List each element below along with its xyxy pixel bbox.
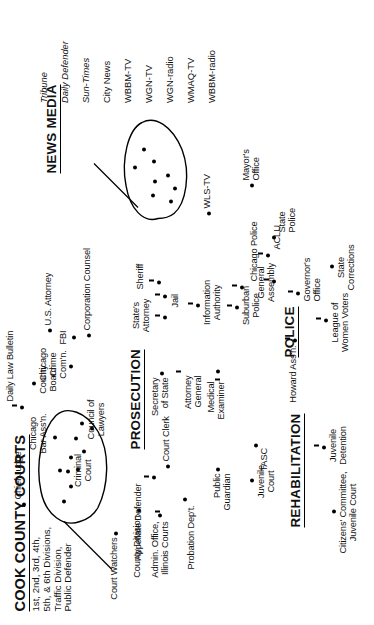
node-label-us-attorney: U.S. Attorney (43, 272, 53, 325)
node-label-court-watchers: Court Watchers (109, 537, 119, 621)
node-label-information-authority: Information Authority (202, 271, 222, 333)
node-label-states-attorney: State's Attorney (131, 291, 151, 339)
cluster-node (166, 173, 170, 177)
node-dot-citizens-committee (332, 509, 336, 513)
outlet-wbbm-tv: WBBM-TV (122, 58, 133, 102)
outlet-wgn-radio: WGN-radio (164, 56, 175, 103)
cluster-node (169, 199, 173, 203)
node-tick-sheriff (149, 279, 154, 281)
node-label-governors-office: Governor's Office (302, 257, 322, 301)
outlet-wmaq-tv: WMAQ-TV (185, 57, 196, 102)
node-tick-howard-assn (285, 337, 290, 339)
node-label-juvenile-court: Juvenile Court (256, 457, 276, 505)
cluster-node (62, 499, 66, 503)
node-dot-daily-law-bulletin (20, 405, 24, 409)
node-dot-county-board (32, 381, 36, 385)
outlet-wbbm-radio: WBBM-radio (206, 49, 217, 102)
node-dot-secretary-of-state (160, 371, 164, 375)
node-label-state-corrections: State Corrections (336, 235, 356, 299)
section-heading-prosecution: PROSECUTION (128, 349, 145, 449)
news-media-outlet-list: Tribune Daily Defender Sun-Times City Ne… (28, 41, 228, 113)
node-label-fbi: FBI (58, 321, 68, 353)
node-label-appellate-defender: Appellate Defender (133, 483, 143, 581)
node-label-state-police: State Police (277, 208, 297, 232)
diagram-canvas: COOK COUNTY COURTS 1st, 2nd, 3rd, 4th, 5… (0, 0, 374, 625)
node-dot-state-corrections (330, 264, 334, 268)
node-dot-league-women-voters (324, 318, 328, 322)
node-dot-chicago-police (240, 285, 244, 289)
node-tick-league-women-voters (316, 317, 321, 319)
outlet-city-news: City News (101, 60, 112, 102)
outlet-tribune: Tribune (38, 71, 49, 102)
node-dot-fbi (72, 335, 76, 339)
node-label-council-of-lawyers: Council of Lawyers (86, 391, 106, 447)
cluster-node (153, 179, 157, 183)
node-tick-chicago-police (232, 284, 237, 286)
node-dot-wls-tv (207, 211, 211, 215)
node-label-public-guardian: Public Guardian (212, 473, 232, 535)
node-tick-attorney-general (176, 370, 181, 372)
node-tick-daily-law-bulletin (12, 404, 17, 406)
node-dot-mayors-office (250, 183, 254, 187)
node-dot-juvenile-detention (322, 445, 326, 449)
node-dot-state-police (272, 235, 276, 239)
node-tick-information-authority (188, 302, 193, 304)
node-dot-appellate-defender (152, 475, 156, 479)
cluster-node (142, 147, 146, 151)
node-dot-juvenile-court (250, 478, 254, 482)
node-dot-criminal-court (66, 469, 70, 473)
node-dot-tasc (254, 443, 258, 447)
node-label-criminal-court: Criminal Court (73, 447, 93, 493)
outlet-sun-times: Sun-Times (80, 57, 91, 102)
node-label-medical-examiner: Medical Examiner (206, 381, 226, 431)
cluster-node (173, 186, 177, 190)
node-dot-jail (163, 294, 167, 298)
node-label-general-assembly: General Assembly (256, 255, 276, 309)
outlet-wgn-tv: WGN-TV (143, 65, 154, 103)
node-dot-chief-judge (22, 502, 26, 506)
cluster-node (151, 193, 155, 197)
node-dot-sheriff (157, 280, 161, 284)
node-label-secretary-of-state: Secretary of State (150, 377, 170, 433)
node-tick-states-attorney (155, 314, 160, 316)
node-dot-court-clerk (166, 464, 170, 468)
node-tick-juvenile-detention (314, 444, 319, 446)
node-label-admin-office: Admin. Office, Illinois Courts (150, 521, 170, 613)
cluster-node (58, 468, 62, 472)
node-tick-medical-examiner (215, 378, 220, 380)
node-label-corporation-counsel: Corporation Counsel (82, 248, 92, 330)
news-media-cluster (122, 117, 190, 225)
node-tick-governors-office (288, 290, 293, 292)
node-label-wls-tv: WLS-TV (202, 174, 212, 208)
node-label-chief-judge: Chief Judge (13, 451, 23, 499)
section-heading-rehabilitation: REHABILITATION (288, 413, 305, 527)
node-dot-council-of-lawyers (80, 421, 84, 425)
node-tick-appellate-defender (144, 475, 149, 477)
node-dot-howard-assn (293, 338, 297, 342)
node-label-probation-dept: Probation Dep't. (186, 505, 196, 601)
node-tick-aclu (258, 252, 263, 254)
node-dot-probation-dept (183, 497, 187, 501)
node-dot-us-attorney (48, 328, 52, 332)
cluster-node (152, 159, 156, 163)
node-label-sheriff: Sheriff (135, 263, 145, 289)
node-tick-suburban-police (227, 304, 232, 306)
node-label-juvenile-detention: Juvenile Detention (328, 417, 348, 473)
node-label-chicago-bar-assn: Chicago Bar Ass'n. (28, 405, 48, 461)
node-tick-jail (155, 293, 160, 295)
node-dot-chicago-bar-assn (53, 435, 57, 439)
node-dot-chicago-crime-comn (69, 364, 73, 368)
node-label-attorney-general: Attorney General (183, 375, 203, 429)
node-dot-court-watchers (114, 531, 118, 535)
node-label-jail: Jail (170, 294, 180, 307)
cluster-node (74, 436, 78, 440)
node-label-mayors-office: Mayor's Office (241, 149, 261, 180)
node-dot-public-guardian (216, 467, 220, 471)
node-dot-suburban-police (235, 305, 239, 309)
node-dot-admin-office (158, 513, 162, 517)
node-label-daily-law-bulletin: Daily Law Bulletin (5, 330, 15, 401)
node-dot-states-attorney (163, 315, 167, 319)
node-dot-information-authority (196, 303, 200, 307)
node-tick-admin-office (155, 510, 160, 512)
node-dot-medical-examiner (216, 369, 220, 373)
